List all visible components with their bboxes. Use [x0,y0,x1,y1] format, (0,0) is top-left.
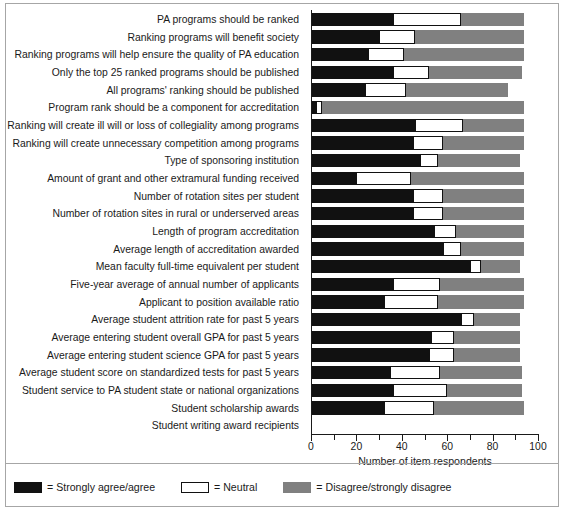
bar-segment-agree [311,366,390,379]
bar-row [311,293,538,312]
bar-row [311,204,538,223]
bar-segment-neutral [429,348,454,361]
stacked-bar [311,207,524,220]
bar-segment-neutral [431,331,454,344]
bar-segment-disagree [440,278,524,291]
stacked-bar [311,331,520,344]
bar-row [311,116,538,135]
bar-segment-agree [311,225,434,238]
stacked-bar [311,401,524,414]
bar-segment-disagree [406,83,508,96]
category-label: Ranking will create ill will or loss of … [7,116,299,135]
bar-segment-agree [311,13,393,26]
bar-segment-disagree [463,119,524,132]
plot-area [311,10,538,434]
bar-segment-agree [311,295,384,308]
category-label: Only the top 25 ranked programs should b… [52,63,299,82]
bar-segment-agree [311,260,470,273]
bar-segment-disagree [461,242,525,255]
stacked-bar [311,30,524,43]
bar-segment-agree [311,48,368,61]
stacked-bar [311,83,508,96]
bar-segment-neutral [413,189,443,202]
bar-segment-agree [311,136,413,149]
x-axis-title: Number of item respondents [311,455,539,467]
bar-segment-disagree [481,260,520,273]
legend-swatch-agree [14,482,42,493]
bar-segment-agree [311,119,415,132]
bar-segment-agree [311,331,431,344]
bar-segment-neutral [443,242,461,255]
bar-segment-neutral [379,30,415,43]
bar-segment-neutral [393,278,441,291]
bar-segment-disagree [454,348,520,361]
bar-segment-disagree [415,30,524,43]
category-label: PA programs should be ranked [157,10,299,29]
stacked-bar [311,13,524,26]
bar-rows [311,10,538,434]
stacked-bar [311,313,520,326]
category-label: Length of program accreditation [152,222,299,241]
category-label: Applicant to position available ratio [139,293,299,312]
bar-row [311,45,538,64]
bar-row [311,222,538,241]
bar-segment-disagree [440,366,522,379]
stacked-bar [311,172,524,185]
bar-segment-neutral [390,366,440,379]
category-label: Ranking will create unnecessary competit… [13,134,299,153]
category-label: Number of rotation sites per student [134,187,299,206]
stacked-bar [311,136,524,149]
bar-segment-neutral [415,119,463,132]
category-label: Program rank should be a component for a… [48,98,299,117]
bar-row [311,328,538,347]
bar-row [311,134,538,153]
legend-divider [6,463,558,464]
bar-segment-agree [311,401,384,414]
bar-row [311,63,538,82]
bar-row [311,81,538,100]
axis-tick-label: 40 [396,441,408,452]
axis-tick-label: 60 [441,441,453,452]
stacked-bar [311,48,524,61]
bar-segment-agree [311,66,393,79]
bar-segment-neutral [413,207,443,220]
bar-segment-disagree [443,189,525,202]
stacked-bar [311,154,520,167]
bar-row [311,275,538,294]
bar-segment-neutral [316,101,323,114]
bar-segment-neutral [461,313,475,326]
bar-segment-neutral [393,384,447,397]
category-label: Student scholarship awards [171,399,299,418]
bar-segment-disagree [411,172,525,185]
bar-segment-agree [311,172,356,185]
bar-row [311,381,538,400]
axis-tick [379,435,380,440]
bar-row [311,151,538,170]
bar-segment-neutral [393,66,429,79]
axis-tick-label: 80 [487,441,499,452]
bar-segment-agree [311,242,443,255]
bar-segment-neutral [393,13,461,26]
bar-segment-agree [311,83,365,96]
axis-tick [425,435,426,440]
category-label: Ranking programs will help ensure the qu… [14,45,299,64]
category-label: Number of rotation sites in rural or und… [52,204,299,223]
bar-segment-disagree [447,384,522,397]
axis-tick-label: 0 [308,441,314,452]
bar-segment-agree [311,189,413,202]
bar-segment-disagree [443,207,525,220]
bar-segment-neutral [368,48,404,61]
bar-segment-disagree [474,313,519,326]
bar-row [311,169,538,188]
stacked-bar [311,225,524,238]
category-label: Average student attrition rate for past … [91,310,299,329]
bar-segment-neutral [434,225,457,238]
stacked-bar [311,119,524,132]
bar-segment-agree [311,348,429,361]
category-label: Average entering student science GPA for… [47,346,299,365]
bar-segment-disagree [404,48,524,61]
stacked-bar [311,295,524,308]
bar-row [311,98,538,117]
axis-tick-label: 100 [529,441,546,452]
bar-segment-neutral [356,172,410,185]
